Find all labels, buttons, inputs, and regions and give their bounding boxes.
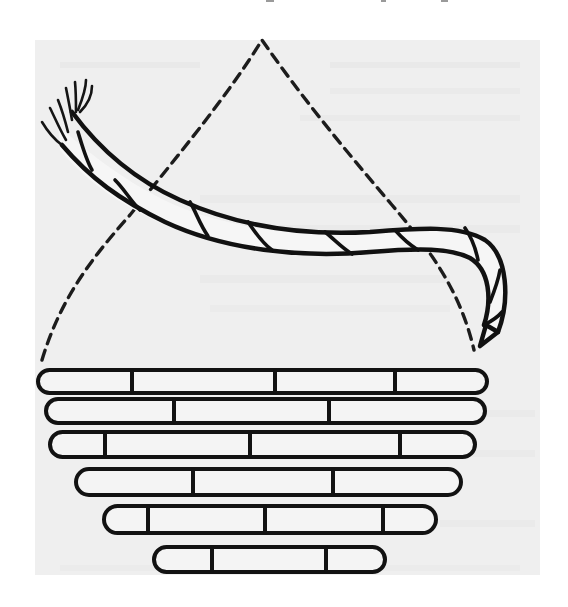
coil-row-6 <box>154 547 385 572</box>
coil-loop <box>104 506 436 533</box>
coil-row-1 <box>38 370 487 393</box>
rope-coil-illustration <box>0 0 568 607</box>
coil-row-3 <box>50 432 475 457</box>
cropped-text-fragments <box>266 0 448 2</box>
coil-loop <box>46 399 485 423</box>
coil-row-4 <box>76 469 461 495</box>
coil-loop <box>76 469 461 495</box>
coil-loop <box>154 547 385 572</box>
coil-row-2 <box>46 399 485 423</box>
coil-loop <box>50 432 475 457</box>
coil-row-5 <box>104 506 436 533</box>
coil-loop <box>38 370 487 393</box>
